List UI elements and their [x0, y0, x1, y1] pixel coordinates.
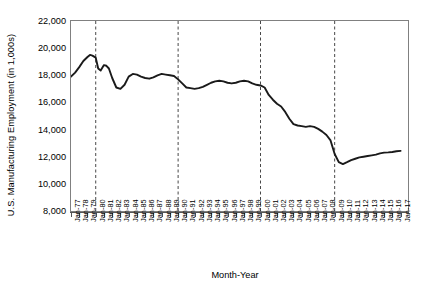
series-canvas — [71, 21, 408, 211]
employment-line — [71, 55, 401, 164]
y-tick-label: 22,000 — [38, 17, 66, 26]
x-axis-title-text: Month-Year — [211, 270, 258, 280]
y-tick-label: 8,000 — [43, 207, 66, 216]
manufacturing-employment-chart: U.S. Manufacturing Employment (in 1,000s… — [0, 0, 438, 293]
y-tick-label: 16,000 — [38, 98, 66, 107]
x-tick-label: Jan-17 — [404, 199, 412, 222]
y-tick-label: 18,000 — [38, 71, 66, 80]
reference-lines-group — [96, 21, 335, 211]
y-tick-label: 14,000 — [38, 125, 66, 134]
x-axis-title: Month-Year — [0, 270, 438, 280]
y-tick-label: 20,000 — [38, 44, 66, 53]
y-tick-label: 10,000 — [38, 179, 66, 188]
plot-area — [70, 20, 409, 212]
y-tick-label: 12,000 — [38, 152, 66, 161]
x-axis-tick-labels: Jan-77Jan-78Jan-79Jan-80Jan-81Jan-82Jan-… — [0, 216, 438, 268]
y-axis-tick-labels: 22,00020,00018,00016,00014,00012,00010,0… — [18, 14, 66, 212]
